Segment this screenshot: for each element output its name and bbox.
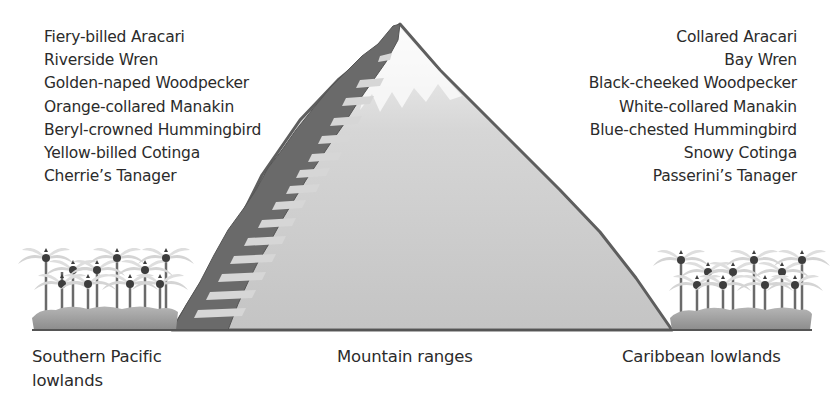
biogeography-diagram: Fiery-billed Aracari Riverside Wren Gold… [0, 0, 840, 400]
pacific-species-list: Fiery-billed Aracari Riverside Wren Gold… [44, 26, 261, 188]
species-item: Riverside Wren [44, 49, 261, 72]
species-item: Cherrie’s Tanager [44, 165, 261, 188]
species-item: White-collared Manakin [589, 96, 797, 119]
pacific-lowland-forest [18, 248, 194, 330]
species-item: Collared Aracari [589, 26, 797, 49]
species-item: Yellow-billed Cotinga [44, 142, 261, 165]
region-label-line: lowlands [32, 369, 202, 393]
region-label-pacific: Southern Pacific lowlands [32, 345, 202, 393]
species-item: Snowy Cotinga [589, 142, 797, 165]
region-label-mountain: Mountain ranges [337, 345, 473, 369]
species-item: Fiery-billed Aracari [44, 26, 261, 49]
species-item: Blue-chested Hummingbird [589, 119, 797, 142]
region-label-caribbean: Caribbean lowlands [622, 345, 781, 369]
species-item: Beryl-crowned Hummingbird [44, 119, 261, 142]
species-item: Black-cheeked Woodpecker [589, 72, 797, 95]
caribbean-lowland-forest [653, 250, 830, 330]
species-item: Bay Wren [589, 49, 797, 72]
region-label-line: Southern Pacific [32, 345, 202, 369]
species-item: Orange-collared Manakin [44, 96, 261, 119]
caribbean-species-list: Collared Aracari Bay Wren Black-cheeked … [589, 26, 797, 188]
species-item: Golden-naped Woodpecker [44, 72, 261, 95]
species-item: Passerini’s Tanager [589, 165, 797, 188]
